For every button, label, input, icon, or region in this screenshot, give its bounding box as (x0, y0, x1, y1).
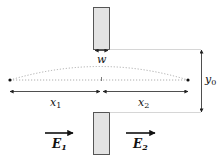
x1-label: x1 (50, 96, 61, 110)
lower-screen (94, 113, 110, 155)
curved-path (10, 67, 188, 81)
incident-field-label: E1 (51, 137, 67, 152)
diagram-canvas: w y0 x1 x2 E1 E2 (0, 0, 222, 161)
width-label: w (97, 53, 107, 66)
source-point (8, 78, 11, 81)
upper-screen (94, 8, 110, 50)
x2-label: x2 (138, 96, 149, 110)
observer-point (186, 78, 189, 81)
transmitted-field-label: E2 (132, 137, 148, 152)
height-label: y0 (204, 73, 216, 87)
